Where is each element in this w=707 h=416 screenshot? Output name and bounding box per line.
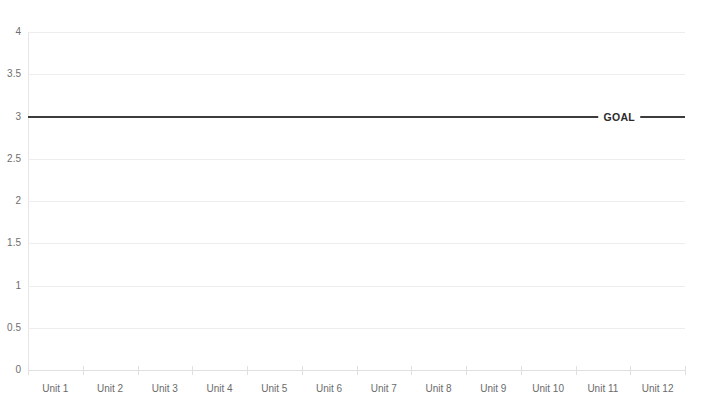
- x-axis-tick-label: Unit 3: [138, 383, 193, 397]
- x-axis-tick: [138, 366, 139, 375]
- gridline: [28, 74, 685, 75]
- y-axis-tick-label: 0: [0, 365, 21, 375]
- x-axis-tick-label: Unit 2: [83, 383, 138, 397]
- chart-title: [0, 0, 707, 2]
- x-axis-tick-label: Unit 7: [357, 383, 412, 397]
- x-axis-tick: [28, 366, 29, 375]
- x-axis-tick-labels: Unit 1Unit 2Unit 3Unit 4Unit 5Unit 6Unit…: [28, 383, 685, 397]
- gridline: [28, 243, 685, 244]
- x-axis-tick-label: Unit 1: [28, 383, 83, 397]
- x-axis-tick: [83, 366, 84, 375]
- x-axis-tick-label: Unit 8: [411, 383, 466, 397]
- y-axis-tick-label: 4: [0, 27, 21, 37]
- x-axis-tick: [630, 366, 631, 375]
- x-axis-tick-label: Unit 11: [576, 383, 631, 397]
- y-axis-tick-label: 2.5: [0, 154, 21, 164]
- x-axis-tick: [411, 366, 412, 375]
- gridline: [28, 32, 685, 33]
- x-axis-tick-label: Unit 4: [192, 383, 247, 397]
- x-axis-tick-label: Unit 6: [302, 383, 357, 397]
- y-axis-tick-label: 3: [0, 112, 21, 122]
- x-axis-tick: [521, 366, 522, 375]
- x-axis-tick: [302, 366, 303, 375]
- gridline: [28, 328, 685, 329]
- x-axis-tick: [247, 366, 248, 375]
- y-axis-tick-label: 3.5: [0, 69, 21, 79]
- x-axis-tick: [357, 366, 358, 375]
- x-axis-tick-label: Unit 9: [466, 383, 521, 397]
- x-axis-tick-label: Unit 12: [630, 383, 685, 397]
- x-axis-tick: [576, 366, 577, 375]
- gridline: [28, 201, 685, 202]
- y-axis-tick-label: 2: [0, 196, 21, 206]
- chart-container: GOAL 43.532.521.510.50 Unit 1Unit 2Unit …: [0, 0, 707, 416]
- x-axis-tick-label: Unit 10: [521, 383, 576, 397]
- goal-line-label: GOAL: [599, 111, 641, 124]
- gridline: [28, 159, 685, 160]
- gridline: [28, 286, 685, 287]
- x-axis-tick-label: Unit 5: [247, 383, 302, 397]
- y-axis-tick-label: 1: [0, 281, 21, 291]
- x-axis-tick: [466, 366, 467, 375]
- y-axis-tick-label: 1.5: [0, 238, 21, 248]
- x-axis-tick: [192, 366, 193, 375]
- y-axis-tick-label: 0.5: [0, 323, 21, 333]
- x-axis-tick: [685, 366, 686, 375]
- plot-area: GOAL: [28, 32, 685, 370]
- goal-reference-line: [28, 116, 685, 118]
